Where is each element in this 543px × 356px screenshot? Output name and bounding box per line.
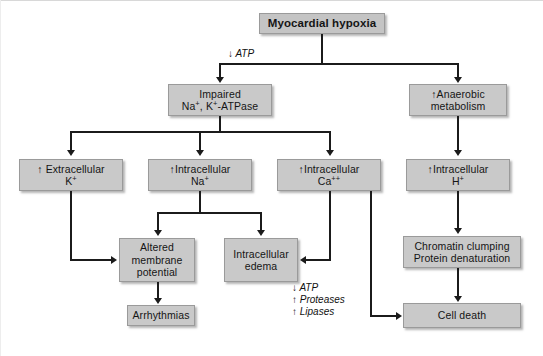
connector-k-drop xyxy=(70,191,72,260)
arrowhead-k-to-amp xyxy=(111,256,117,264)
connector-na-to-amp xyxy=(157,212,159,231)
flowchart-canvas: Myocardial hypoxia Impaired Na+, K+-ATPa… xyxy=(0,0,543,356)
arrowhead-na-to-edema xyxy=(257,230,265,236)
connector-ca-left-drop xyxy=(329,191,331,260)
connector-atpase-to-k xyxy=(70,131,72,151)
arrowhead-h-to-chromatin xyxy=(454,228,462,234)
arrowhead-to-k xyxy=(67,150,75,156)
node-arrhythmias: Arrhythmias xyxy=(127,305,195,326)
node-label-line1: ↑Intracellular xyxy=(299,163,360,176)
node-label-line1: Intracellular xyxy=(233,248,289,261)
node-cell-death: Cell death xyxy=(403,303,521,328)
node-chromatin-clumping: Chromatin clumping Protein denaturation xyxy=(403,236,521,268)
node-label-line1: ↑Intracellular xyxy=(170,163,231,176)
arrowhead-to-na xyxy=(196,150,204,156)
page-top-border xyxy=(0,0,543,1)
connector-hypoxia-to-atpase xyxy=(219,63,221,78)
node-label-line2: Na+ xyxy=(191,175,209,188)
connector-na-to-edema xyxy=(260,212,262,231)
node-intracellular-h: ↑Intracellular H+ xyxy=(406,159,510,191)
node-label-line2: Na+, K+-ATPase xyxy=(182,100,259,113)
connector-na-stem xyxy=(199,191,201,213)
node-label-line1: Impaired xyxy=(199,88,241,101)
node-label-line1: ↑ Extracellular xyxy=(37,163,104,176)
node-label-line1: ↑Intracellular xyxy=(428,163,489,176)
node-label-line2: H+ xyxy=(452,175,464,188)
connector-atpase-to-na xyxy=(199,131,201,151)
arrowhead-na-to-amp xyxy=(154,230,162,236)
arrowhead-to-atpase xyxy=(216,77,224,83)
connector-ca-to-cell-death xyxy=(370,315,397,317)
node-label-line2: Ca++ xyxy=(318,175,341,188)
arrowhead-to-anaerobic xyxy=(454,77,462,83)
annotation-ca-effects-line1: ↓ ATP xyxy=(292,282,318,295)
connector-h-to-chromatin xyxy=(457,191,459,229)
connector-ca-to-edema xyxy=(306,259,331,261)
node-intracellular-edema: Intracellular edema xyxy=(224,238,298,282)
node-anaerobic-metabolism: ↑Anaerobic metabolism xyxy=(409,84,507,116)
arrowhead-amp-to-arrhythmias xyxy=(154,298,162,304)
node-label-line2: metabolism xyxy=(431,100,486,113)
connector-hypoxia-stem xyxy=(321,34,323,64)
connector-k-to-amp xyxy=(70,259,112,261)
annotation-atp-drop: ↓ ATP xyxy=(228,48,254,61)
arrowhead-ca-to-cell-death xyxy=(396,312,402,320)
connector-chromatin-to-cell-death xyxy=(457,268,459,297)
arrowhead-to-ca xyxy=(326,150,334,156)
node-label: Cell death xyxy=(438,309,486,322)
node-altered-membrane-potential: Altered membrane potential xyxy=(119,238,195,282)
node-myocardial-hypoxia: Myocardial hypoxia xyxy=(259,13,385,34)
node-label-line2: K+ xyxy=(65,175,77,188)
connector-atpase-to-ca xyxy=(329,131,331,151)
connector-ca-right-drop xyxy=(370,191,372,316)
node-label-line1: ↑Anaerobic xyxy=(431,88,485,101)
connector-hypoxia-to-anaerobic xyxy=(457,63,459,78)
node-label-line2: membrane xyxy=(132,254,183,267)
arrowhead-ca-to-edema xyxy=(300,256,306,264)
node-label-line1: Altered xyxy=(140,241,174,254)
connector-anaerobic-to-h xyxy=(457,116,459,152)
node-label-line2: Protein denaturation xyxy=(414,252,511,265)
connector-na-bus xyxy=(157,212,261,214)
node-extracellular-k: ↑ Extracellular K+ xyxy=(19,159,123,191)
node-label: Myocardial hypoxia xyxy=(268,17,377,30)
arrowhead-chromatin-to-cell-death xyxy=(454,296,462,302)
node-intracellular-na: ↑Intracellular Na+ xyxy=(148,159,252,191)
node-label-line1: Chromatin clumping xyxy=(414,240,509,253)
node-label-line2: edema xyxy=(245,260,278,273)
annotation-ca-effects-line2: ↑ Proteases xyxy=(292,294,345,307)
page-left-border xyxy=(0,0,1,356)
arrowhead-to-h xyxy=(454,150,462,156)
annotation-ca-effects-line3: ↑ Lipases xyxy=(292,306,334,319)
node-label: Arrhythmias xyxy=(132,309,189,322)
node-intracellular-ca: ↑Intracellular Ca++ xyxy=(277,159,381,191)
connector-amp-to-arrhythmias xyxy=(157,282,159,299)
node-label-line3: potential xyxy=(137,266,178,279)
connector-hypoxia-bus xyxy=(219,63,458,65)
node-impaired-atpase: Impaired Na+, K+-ATPase xyxy=(168,84,272,116)
connector-atpase-stem xyxy=(219,116,221,132)
